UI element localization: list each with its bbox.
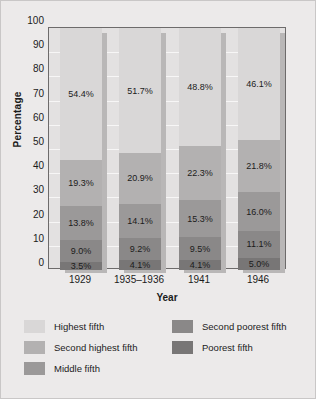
bar-segment[interactable]: 46.1% (238, 28, 280, 140)
segment-value-label: 21.8% (246, 161, 272, 171)
segment-value-label: 51.7% (127, 86, 153, 96)
y-axis-tick-70: 70 (8, 88, 44, 100)
segment-value-label: 22.3% (187, 168, 213, 178)
bar-stack: 4.1%9.5%15.3%22.3%48.8% (179, 28, 221, 268)
legend-swatch (24, 320, 45, 333)
segment-value-label: 20.9% (127, 173, 153, 183)
legend-label: Second poorest fifth (202, 321, 287, 332)
bar-group: 3.5%9.0%13.8%19.3%54.4%4.1%9.2%14.1%20.9… (49, 28, 285, 268)
bar-segment[interactable]: 5.0% (238, 258, 280, 270)
segment-value-label: 54.4% (68, 89, 94, 99)
bar-1946[interactable]: 5.0%11.1%16.0%21.8%46.1% (238, 28, 280, 268)
bar-segment[interactable]: 19.3% (60, 160, 102, 207)
bar-segment[interactable]: 22.3% (179, 146, 221, 200)
bar-segment[interactable]: 54.4% (60, 28, 102, 160)
legend-swatch (24, 362, 45, 375)
legend-label: Poorest fifth (202, 342, 253, 353)
plot-area: 3.5%9.0%13.8%19.3%54.4%4.1%9.2%14.1%20.9… (48, 27, 286, 269)
segment-value-label: 46.1% (246, 79, 272, 89)
legend-column-right: Second poorest fifthPoorest fifth (172, 316, 316, 358)
segment-value-label: 4.1% (130, 260, 151, 270)
y-axis-tick-40: 40 (8, 160, 44, 172)
segment-value-label: 11.1% (247, 239, 272, 249)
bar-stack: 4.1%9.2%14.1%20.9%51.7% (119, 28, 161, 268)
y-axis-tick-50: 50 (8, 136, 44, 148)
y-axis-tick-60: 60 (8, 112, 44, 124)
segment-value-label: 9.2% (130, 244, 151, 254)
legend-label: Highest fifth (54, 321, 104, 332)
y-axis-tick-30: 30 (8, 184, 44, 196)
bar-segment[interactable]: 4.1% (119, 260, 161, 270)
bar-segment[interactable]: 9.5% (179, 237, 221, 260)
legend-swatch (24, 341, 45, 354)
bar-segment[interactable]: 20.9% (119, 153, 161, 204)
bar-1935–1936[interactable]: 4.1%9.2%14.1%20.9%51.7% (119, 28, 161, 268)
bar-segment[interactable]: 14.1% (119, 204, 161, 238)
y-axis-tick-labels: 1009080706050403020100 (8, 21, 44, 263)
legend-item[interactable]: Highest fifth (24, 316, 174, 337)
y-axis-tick-20: 20 (8, 209, 44, 221)
segment-value-label: 19.3% (68, 178, 94, 188)
segment-value-label: 9.0% (71, 246, 92, 256)
y-axis-tick-10: 10 (8, 233, 44, 245)
legend-column-left: Highest fifthSecond highest fifthMiddle … (24, 316, 174, 379)
segment-value-label: 14.1% (127, 216, 153, 226)
bar-segment[interactable]: 3.5% (60, 262, 102, 270)
legend-swatch (172, 320, 193, 333)
segment-value-label: 15.3% (187, 214, 213, 224)
legend-swatch (172, 341, 193, 354)
chart-figure: Percentage 1009080706050403020100 3.5%9.… (0, 0, 316, 399)
bar-segment[interactable]: 4.1% (179, 260, 221, 270)
bar-segment[interactable]: 9.0% (60, 240, 102, 262)
legend-item[interactable]: Middle fifth (24, 358, 174, 379)
bar-segment[interactable]: 11.1% (238, 231, 280, 258)
legend-item[interactable]: Poorest fifth (172, 337, 316, 358)
y-axis-tick-80: 80 (8, 63, 44, 75)
segment-value-label: 3.5% (71, 261, 92, 271)
segment-value-label: 4.1% (190, 260, 211, 270)
bar-segment[interactable]: 51.7% (119, 28, 161, 153)
bar-1941[interactable]: 4.1%9.5%15.3%22.3%48.8% (179, 28, 221, 268)
x-axis-tick-1946: 1946 (218, 274, 298, 285)
bar-segment[interactable]: 16.0% (238, 192, 280, 231)
bar-segment[interactable]: 9.2% (119, 238, 161, 260)
legend-label: Middle fifth (54, 363, 100, 374)
legend-label: Second highest fifth (54, 342, 137, 353)
bar-1929[interactable]: 3.5%9.0%13.8%19.3%54.4% (60, 28, 102, 268)
x-axis-tick-labels: 19291935–193619411946 (48, 274, 286, 288)
y-axis-tick-90: 90 (8, 39, 44, 51)
x-axis-title: Year (48, 292, 286, 303)
y-axis-tick-0: 0 (8, 257, 44, 269)
bar-segment[interactable]: 13.8% (60, 206, 102, 239)
legend: Highest fifthSecond highest fifthMiddle … (12, 316, 304, 382)
segment-value-label: 5.0% (249, 259, 270, 269)
legend-item[interactable]: Second poorest fifth (172, 316, 316, 337)
bar-stack: 3.5%9.0%13.8%19.3%54.4% (60, 28, 102, 268)
legend-item[interactable]: Second highest fifth (24, 337, 174, 358)
bar-segment[interactable]: 48.8% (179, 28, 221, 146)
segment-value-label: 9.5% (190, 244, 211, 254)
segment-value-label: 16.0% (246, 207, 272, 217)
bar-stack: 5.0%11.1%16.0%21.8%46.1% (238, 28, 280, 268)
y-axis-tick-100: 100 (8, 15, 44, 27)
segment-value-label: 13.8% (68, 218, 94, 228)
bar-segment[interactable]: 21.8% (238, 140, 280, 193)
bar-segment[interactable]: 15.3% (179, 200, 221, 237)
segment-value-label: 48.8% (187, 82, 213, 92)
